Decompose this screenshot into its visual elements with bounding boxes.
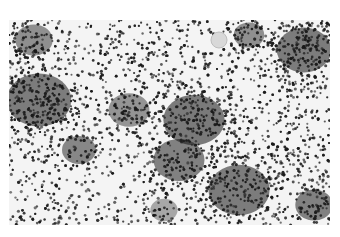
micrograph-image — [9, 20, 330, 225]
particle-field — [9, 20, 330, 225]
